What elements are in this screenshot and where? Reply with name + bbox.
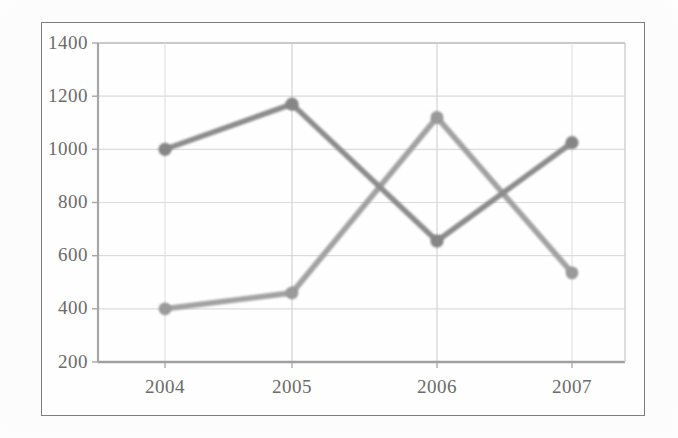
y-tick-label-800: 800	[22, 191, 88, 213]
line-chart	[0, 0, 678, 438]
y-tick-label-1000: 1000	[22, 138, 88, 160]
y-tick-label-1400: 1400	[22, 32, 88, 54]
y-tick-label-200: 200	[22, 351, 88, 373]
y-tick-label-600: 600	[22, 244, 88, 266]
y-tick-label-1200: 1200	[22, 85, 88, 107]
x-tick-label-2004: 2004	[120, 376, 210, 398]
x-tick-label-2007: 2007	[527, 376, 617, 398]
x-tick-label-2005: 2005	[247, 376, 337, 398]
x-tick-label-2006: 2006	[392, 376, 482, 398]
y-tick-label-400: 400	[22, 297, 88, 319]
